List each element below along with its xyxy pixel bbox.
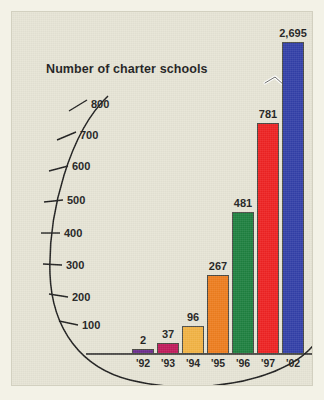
x-tick-label-02: '02 [281,357,305,369]
x-tick-label-93: '93 [156,357,180,369]
chart-panel: Number of charter schools 800 [11,11,313,386]
bar-value-93: 37 [157,328,179,340]
y-tick-label-800: 800 [91,98,109,110]
y-tick-label-200: 200 [72,291,90,303]
y-tick-label-700: 700 [80,129,98,141]
y-tick-label-400: 400 [64,227,82,239]
bar-value-92: 2 [132,334,154,346]
bar-92[interactable] [132,349,154,354]
bar-value-96: 481 [230,197,256,209]
x-tick-label-97: '97 [256,357,280,369]
bar-value-02: 2,695 [276,27,310,39]
bar-value-95: 267 [205,260,231,272]
y-tick-label-300: 300 [66,259,84,271]
x-tick-label-95: '95 [206,357,230,369]
x-tick-label-94: '94 [181,357,205,369]
chart-figure: Number of charter schools 800 [0,0,324,400]
bar-96[interactable] [232,212,254,354]
x-tick-label-92: '92 [131,357,155,369]
y-tick-label-100: 100 [82,319,100,331]
bar-97[interactable] [257,123,279,354]
x-tick-label-96: '96 [231,357,255,369]
bar-95[interactable] [207,275,229,354]
bar-value-97: 781 [255,108,281,120]
bar-94[interactable] [182,326,204,354]
y-tick-label-500: 500 [67,194,85,206]
y-tick-label-600: 600 [72,160,90,172]
bar-02[interactable] [282,42,304,354]
bar-value-94: 96 [182,311,204,323]
bar-93[interactable] [157,343,179,354]
